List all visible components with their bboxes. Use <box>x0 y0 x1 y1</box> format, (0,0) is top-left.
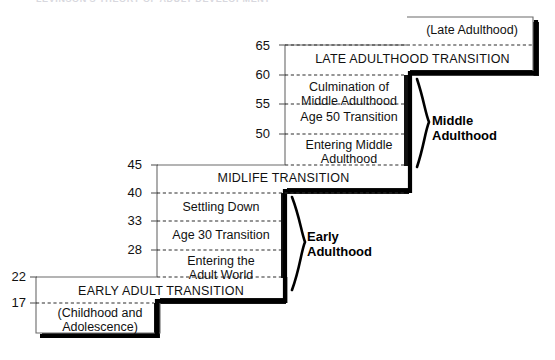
label-late-adulthood: (Late Adulthood) <box>412 23 532 37</box>
tick-55: 55 <box>246 97 270 110</box>
middle-adulthood-brace <box>417 79 429 167</box>
tick-50: 50 <box>246 127 270 140</box>
tick-45: 45 <box>118 158 142 171</box>
label-entering-the-adult-world: Entering the Adult World <box>162 254 280 282</box>
tick-60: 60 <box>246 68 270 81</box>
tick-40: 40 <box>118 186 142 199</box>
label-age-50-transition: Age 50 Transition <box>290 110 408 124</box>
label-early-adult-transition: EARLY ADULT TRANSITION <box>41 284 281 298</box>
tick-33: 33 <box>118 214 142 227</box>
label-settling-down: Settling Down <box>162 200 280 214</box>
tick-28: 28 <box>118 243 142 256</box>
label-culmination-of-middle-adulthood: Culmination of Middle Adulthood <box>290 80 408 108</box>
tick-22: 22 <box>0 270 26 283</box>
label-entering-middle-adulthood: Entering Middle Adulthood <box>290 138 408 166</box>
tick-17: 17 <box>0 296 26 309</box>
label-age-30-transition: Age 30 Transition <box>162 228 280 242</box>
early-adulthood-brace <box>292 197 305 290</box>
brace-label-early-adulthood: Early Adulthood <box>307 229 372 259</box>
tick-65: 65 <box>246 39 270 52</box>
label-midlife-transition: MIDLIFE TRANSITION <box>162 171 405 185</box>
brace-label-middle-adulthood: Middle Adulthood <box>432 113 497 143</box>
levinson-seasons-of-life-diagram: LEVINSON'S THEORY OF ADULT DEVELOPMENT <box>0 0 555 360</box>
label-late-adulthood-transition: LATE ADULTHOOD TRANSITION <box>290 52 535 66</box>
label-childhood-and-adolescence: (Childhood and Adolescence) <box>41 306 159 334</box>
